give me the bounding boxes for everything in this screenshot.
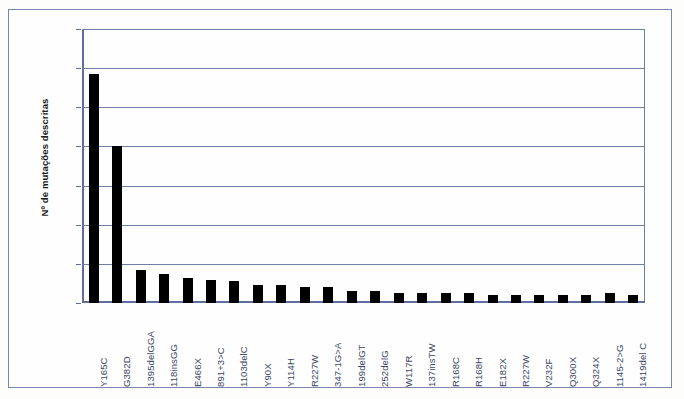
x-tick-label: 1395delGGA xyxy=(145,331,156,387)
bar xyxy=(464,293,474,303)
y-tick-mark xyxy=(76,186,81,187)
bar xyxy=(300,287,310,303)
bar xyxy=(206,280,216,303)
x-tick-label: V232F xyxy=(543,359,554,388)
bar xyxy=(159,274,169,303)
x-tick-label: G382D xyxy=(121,356,132,387)
y-tick-mark xyxy=(76,29,81,30)
x-tick-label: Q324X xyxy=(590,357,601,387)
gridline xyxy=(82,146,645,147)
bar xyxy=(89,74,99,303)
x-tick-label: Y90X xyxy=(262,363,273,387)
bar xyxy=(136,270,146,303)
bar xyxy=(370,291,380,303)
gridline xyxy=(82,225,645,226)
x-tick-label: 1419del C xyxy=(637,343,648,387)
x-tick-label: E466X xyxy=(192,358,203,387)
bar xyxy=(441,293,451,303)
bar xyxy=(558,295,568,303)
bar xyxy=(347,291,357,303)
bar xyxy=(488,295,498,303)
y-tick-mark xyxy=(76,303,81,304)
y-axis-title: Nº de mutações descritas xyxy=(39,68,50,248)
plot-border-right xyxy=(644,29,645,303)
y-axis-line xyxy=(82,29,84,303)
bar xyxy=(253,285,263,303)
bar xyxy=(276,285,286,303)
bar xyxy=(394,293,404,303)
x-tick-label: 347-1G>A xyxy=(332,343,343,387)
x-tick-label: 137insTW xyxy=(426,343,437,387)
figure-container: Nº de mutações descritas 020406080100120… xyxy=(0,0,684,399)
y-tick-mark xyxy=(76,225,81,226)
x-axis-labels: Y165CG382D1395delGGA118insGGE466X891+3>C… xyxy=(82,305,645,391)
x-tick-label: 1145-2>G xyxy=(614,344,625,387)
x-tick-label: Q300X xyxy=(567,357,578,387)
plot-area: 020406080100120140 xyxy=(82,29,645,303)
bar xyxy=(511,295,521,303)
x-tick-label: E182X xyxy=(497,358,508,387)
x-tick-label: 891+3>C xyxy=(215,347,226,387)
bar xyxy=(628,295,638,303)
x-tick-label: 199delGT xyxy=(356,344,367,387)
bar xyxy=(112,146,122,303)
bar xyxy=(417,293,427,303)
x-tick-label: 252delG xyxy=(379,350,390,387)
y-tick-mark xyxy=(76,68,81,69)
y-tick-mark xyxy=(76,264,81,265)
x-tick-label: R227W xyxy=(520,355,531,387)
x-tick-label: 1103delC xyxy=(238,346,249,387)
x-tick-label: Y114H xyxy=(285,358,296,387)
bar xyxy=(323,287,333,303)
x-tick-label: R168H xyxy=(473,357,484,387)
bar xyxy=(229,281,239,303)
gridline xyxy=(82,186,645,187)
gridline xyxy=(82,68,645,69)
bar xyxy=(605,293,615,303)
gridline xyxy=(82,107,645,108)
x-tick-label: W117R xyxy=(403,356,414,387)
x-tick-label: R227W xyxy=(309,355,320,387)
gridline xyxy=(82,264,645,265)
x-tick-label: Y165C xyxy=(98,357,109,387)
x-tick-label: R168C xyxy=(450,357,461,387)
gridline xyxy=(82,29,645,30)
x-tick-label: 118insGG xyxy=(168,344,179,387)
bar xyxy=(581,295,591,303)
bar xyxy=(183,278,193,303)
y-tick-mark xyxy=(76,107,81,108)
y-tick-mark xyxy=(76,146,81,147)
bar xyxy=(534,295,544,303)
